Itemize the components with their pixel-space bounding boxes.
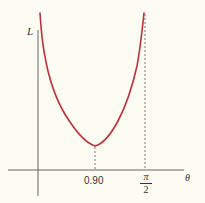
x-tick-pi-over-2: π 2 [140,172,152,195]
y-axis-label: L [27,26,33,37]
x-tick-pi-denominator: 2 [140,184,152,195]
chart-figure: L θ 0.90 π 2 [0,0,205,203]
x-tick-pi-numerator: π [140,172,152,184]
curve-L-of-theta [40,13,144,146]
x-tick-0-90: 0.90 [84,176,103,186]
x-axis-label: θ [185,173,190,183]
